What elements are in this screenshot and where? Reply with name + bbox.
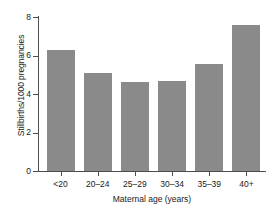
x-tick-mark: [61, 172, 62, 176]
y-axis-spine: [38, 16, 39, 172]
y-tick-label: 8: [18, 13, 31, 22]
bar: [84, 73, 112, 171]
y-tick-mark: [33, 133, 38, 134]
x-tick-mark: [209, 172, 210, 176]
bar: [158, 81, 186, 171]
bar: [121, 82, 149, 171]
x-tick-label: 40+: [221, 180, 271, 189]
y-tick-mark: [33, 171, 38, 172]
y-tick-label: 4: [18, 90, 31, 99]
y-tick-mark: [33, 17, 38, 18]
y-axis-title: Stillbirths/1000 pregnancies: [14, 0, 28, 171]
y-tick-label: 6: [18, 51, 31, 60]
stillbirths-by-maternal-age-bar-chart: Stillbirths/1000 pregnancies 02468 <2020…: [0, 0, 273, 211]
x-tick-mark: [246, 172, 247, 176]
y-tick-mark: [33, 94, 38, 95]
bar: [195, 64, 223, 171]
x-axis-spine: [38, 171, 266, 172]
x-axis-title: Maternal age (years): [38, 194, 266, 204]
x-tick-mark: [135, 172, 136, 176]
y-tick-mark: [33, 56, 38, 57]
x-tick-mark: [172, 172, 173, 176]
y-tick-label: 0: [18, 167, 31, 176]
y-tick-label: 2: [18, 128, 31, 137]
bar: [232, 25, 260, 171]
bar: [47, 50, 75, 171]
x-tick-mark: [98, 172, 99, 176]
